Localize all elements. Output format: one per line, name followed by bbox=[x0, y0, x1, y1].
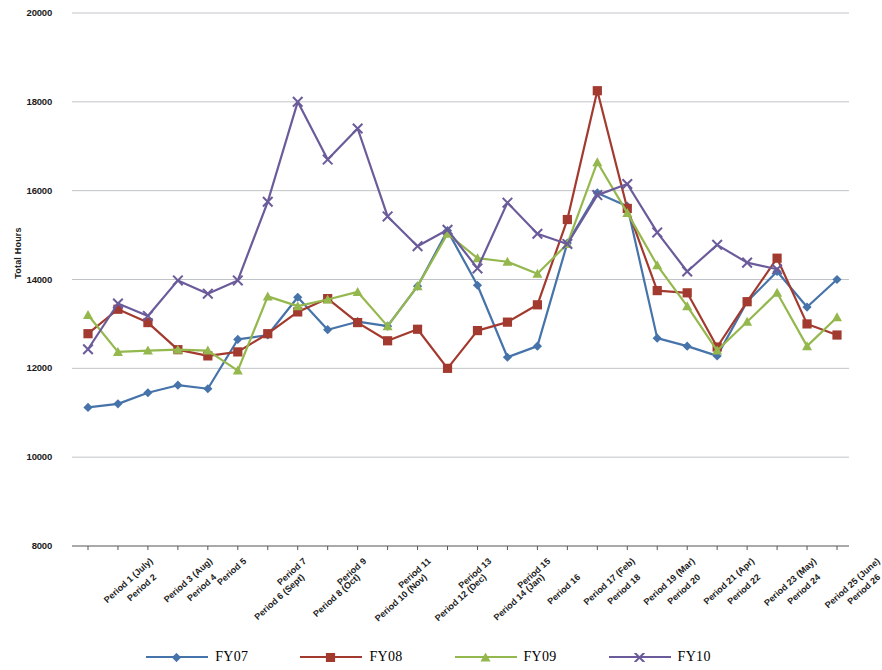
legend-item-fy10[interactable]: FY10 bbox=[609, 649, 711, 665]
data-point-marker bbox=[326, 653, 335, 662]
data-point-marker bbox=[443, 364, 452, 373]
data-point-marker bbox=[413, 241, 423, 251]
data-point-marker bbox=[563, 215, 572, 224]
data-point-marker bbox=[634, 653, 644, 662]
series-line bbox=[88, 193, 837, 408]
data-point-marker bbox=[172, 653, 181, 662]
data-point-marker bbox=[83, 329, 92, 338]
data-point-marker bbox=[233, 347, 242, 356]
data-point-marker bbox=[533, 342, 542, 351]
data-point-marker bbox=[83, 403, 92, 412]
data-point-marker bbox=[683, 342, 692, 351]
data-point-marker bbox=[682, 267, 692, 277]
legend-swatch-fy08-icon bbox=[300, 651, 362, 663]
data-point-marker bbox=[832, 330, 841, 339]
series-fy08 bbox=[83, 86, 841, 373]
legend-label: FY09 bbox=[524, 649, 557, 665]
data-point-marker bbox=[263, 329, 272, 338]
data-point-marker bbox=[622, 179, 632, 189]
data-point-marker bbox=[353, 318, 362, 327]
data-point-marker bbox=[652, 260, 662, 269]
data-point-marker bbox=[802, 319, 811, 328]
legend-item-fy08[interactable]: FY08 bbox=[300, 649, 402, 665]
legend-swatch-fy09-icon bbox=[455, 651, 517, 663]
data-point-marker bbox=[173, 276, 183, 286]
data-point-marker bbox=[653, 286, 662, 295]
data-point-marker bbox=[113, 399, 122, 408]
series-line bbox=[88, 162, 837, 370]
legend-item-fy07[interactable]: FY07 bbox=[146, 649, 248, 665]
data-point-marker bbox=[653, 334, 662, 343]
data-point-marker bbox=[683, 288, 692, 297]
data-point-marker bbox=[203, 289, 213, 299]
data-point-marker bbox=[503, 353, 512, 362]
data-point-marker bbox=[383, 336, 392, 345]
legend-swatch-fy07-icon bbox=[146, 651, 208, 663]
data-point-marker bbox=[592, 157, 602, 166]
series-fy09 bbox=[83, 157, 842, 374]
series-fy10 bbox=[83, 97, 782, 354]
data-point-marker bbox=[480, 653, 490, 662]
data-point-marker bbox=[83, 344, 93, 354]
legend-item-fy09[interactable]: FY09 bbox=[455, 649, 557, 665]
data-point-marker bbox=[173, 381, 182, 390]
data-point-marker bbox=[772, 254, 781, 263]
data-point-marker bbox=[743, 297, 752, 306]
chart-legend: FY07FY08FY09FY10 bbox=[0, 643, 857, 670]
legend-label: FY10 bbox=[678, 649, 711, 665]
data-point-marker bbox=[263, 291, 273, 300]
data-point-marker bbox=[832, 312, 842, 321]
data-point-marker bbox=[413, 325, 422, 334]
data-point-marker bbox=[712, 240, 722, 250]
data-point-marker bbox=[473, 281, 482, 290]
data-point-marker bbox=[473, 264, 483, 274]
series-line bbox=[88, 91, 837, 369]
series-fy07 bbox=[83, 188, 841, 412]
data-point-marker bbox=[772, 288, 782, 297]
legend-label: FY08 bbox=[369, 649, 402, 665]
data-point-marker bbox=[503, 198, 513, 208]
data-point-marker bbox=[323, 155, 333, 165]
legend-label: FY07 bbox=[215, 649, 248, 665]
series-line bbox=[88, 102, 777, 349]
data-point-marker bbox=[143, 388, 152, 397]
data-point-marker bbox=[353, 287, 363, 296]
data-point-marker bbox=[593, 86, 602, 95]
data-point-marker bbox=[83, 310, 93, 319]
data-point-marker bbox=[503, 318, 512, 327]
data-point-marker bbox=[652, 228, 662, 238]
data-point-marker bbox=[233, 276, 243, 286]
data-point-marker bbox=[533, 300, 542, 309]
legend-swatch-fy10-icon bbox=[609, 651, 671, 663]
data-point-marker bbox=[473, 326, 482, 335]
